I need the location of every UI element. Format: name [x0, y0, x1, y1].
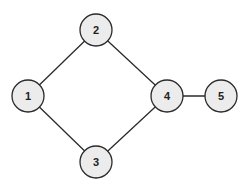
node-5: 5: [205, 80, 237, 112]
node-label: 3: [93, 156, 99, 168]
node-1: 1: [12, 80, 44, 112]
graph-diagram: 1 2 3 4 5: [0, 0, 250, 189]
node-label: 4: [164, 90, 171, 102]
node-label: 2: [93, 24, 99, 36]
node-label: 1: [25, 90, 31, 102]
node-3: 3: [80, 146, 112, 178]
edges: [28, 30, 221, 162]
node-4: 4: [151, 80, 183, 112]
node-label: 5: [218, 90, 224, 102]
node-2: 2: [80, 14, 112, 46]
